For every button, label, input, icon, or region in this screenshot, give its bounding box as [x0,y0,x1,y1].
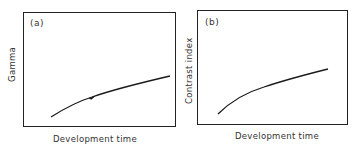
panel-b-contrast-index-curve [178,0,357,150]
panel-a: (a) Gamma Development time [0,0,180,150]
panel-a-gamma-curve [0,0,180,150]
panel-b: (b) Contrast index Development time [178,0,357,150]
